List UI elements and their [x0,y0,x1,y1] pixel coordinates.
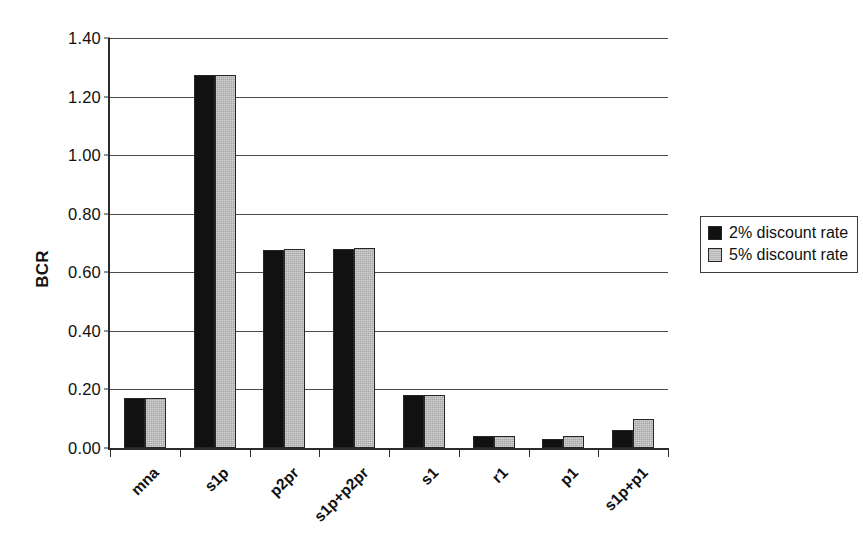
legend-swatch-icon [708,226,722,240]
x-tick-mark [459,448,460,457]
x-tick-mark [389,448,390,457]
x-tick-mark [110,448,111,457]
x-tick-mark [250,448,251,457]
x-tick-mark [598,448,599,457]
y-tick-label: 0.60 [68,263,110,282]
bar [284,249,305,448]
bar-group [389,38,459,448]
bar-group [459,38,529,448]
x-tick-mark [668,448,669,457]
bar-chart-figure: BCR 1.401.201.000.800.600.400.200.00 mna… [0,0,863,537]
bar [145,398,166,448]
bar [494,436,515,448]
y-tick-label: 1.00 [68,146,110,165]
bar [424,395,445,448]
x-tick-label: p1 [556,464,582,490]
x-tick-label: mna [128,464,163,499]
x-tick-label: s1p+p2pr [311,464,373,526]
y-tick-label: 0.80 [68,204,110,223]
legend-item-label: 5% discount rate [729,246,848,264]
bar [215,75,236,448]
bar [633,419,654,448]
x-tick-label: s1p+p1 [601,464,652,515]
bar [563,436,584,448]
y-tick-label: 0.00 [68,439,110,458]
bars-layer [110,38,668,448]
bar [403,395,424,448]
plot-area: 1.401.201.000.800.600.400.200.00 mnas1pp… [108,38,668,450]
y-tick-label: 1.40 [68,29,110,48]
x-tick-label: s1 [417,464,442,489]
x-tick-mark [319,448,320,457]
bar-group [180,38,250,448]
bar-group [529,38,599,448]
bar [194,75,215,448]
y-tick-label: 0.20 [68,380,110,399]
chart-legend: 2% discount rate 5% discount rate [700,216,858,273]
bar [333,249,354,448]
legend-item: 2% discount rate [708,222,848,244]
bar [542,439,563,448]
legend-swatch-icon [708,248,722,262]
x-tick-mark [529,448,530,457]
legend-item: 5% discount rate [708,244,848,266]
bar-group [319,38,389,448]
bar-group [250,38,320,448]
x-tick-label: s1p [201,464,233,496]
bar [354,248,375,448]
x-tick-label: r1 [489,464,512,487]
bar [263,250,284,448]
x-tick-mark [180,448,181,457]
bar-group [598,38,668,448]
bar-group [110,38,180,448]
y-axis-title: BCR [33,250,53,288]
bar [124,398,145,448]
bar [473,436,494,448]
y-tick-label: 0.40 [68,321,110,340]
y-tick-label: 1.20 [68,87,110,106]
legend-item-label: 2% discount rate [729,224,848,242]
bar [612,430,633,448]
x-tick-label: p2pr [266,464,302,500]
